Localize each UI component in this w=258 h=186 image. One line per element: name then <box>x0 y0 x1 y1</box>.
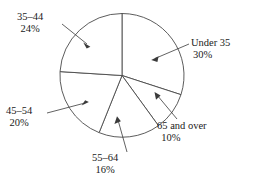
pie-label-45-54-value: 20% <box>6 117 32 129</box>
pie-label-under-35-value: 30% <box>191 49 230 61</box>
pie-label-45-54: 45–54 20% <box>6 105 32 130</box>
pie-label-65-and-over-value: 10% <box>157 132 207 144</box>
pie-label-under-35: Under 35 30% <box>191 37 230 62</box>
pie-slices <box>60 13 184 137</box>
pie-label-65-and-over: 65 and over 10% <box>157 120 207 145</box>
pie-label-55-64-name: 55–64 <box>92 152 118 164</box>
pie-label-under-35-name: Under 35 <box>191 37 230 49</box>
pie-chart-figure: Under 35 30% 35–44 24% 45–54 20% 55–64 1… <box>0 0 258 186</box>
pie-slice-35-44 <box>60 13 122 75</box>
pie-label-65-and-over-name: 65 and over <box>157 120 207 132</box>
pie-label-35-44-value: 24% <box>17 23 43 35</box>
pie-label-55-64: 55–64 16% <box>92 152 118 177</box>
pie-label-45-54-name: 45–54 <box>6 105 32 117</box>
pie-label-35-44-name: 35–44 <box>17 11 43 23</box>
pie-label-35-44: 35–44 24% <box>17 11 43 36</box>
pie-label-55-64-value: 16% <box>92 164 118 176</box>
